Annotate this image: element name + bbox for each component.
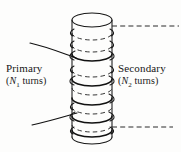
primary-winding-arcs: [72, 54, 112, 137]
primary-turns-word: turns: [20, 75, 43, 86]
primary-arc: [72, 130, 112, 137]
primary-arc: [72, 79, 112, 86]
secondary-arc: [72, 70, 112, 77]
core-bottom-arc: [72, 137, 112, 144]
secondary-turns-word: turns: [132, 75, 155, 86]
primary-paren-close: ): [43, 75, 46, 86]
secondary-arc: [72, 88, 112, 95]
primary-arc: [72, 54, 112, 61]
primary-label: Primary (N1 turns): [6, 62, 46, 90]
transformer-winding-figure: Primary (N1 turns) Secondary (N2 turns): [0, 0, 181, 152]
secondary-arc: [72, 125, 112, 132]
primary-turns-label: (N1 turns): [6, 75, 46, 90]
primary-label-title: Primary: [6, 62, 46, 75]
secondary-turns-label: (N2 turns): [118, 75, 166, 90]
primary-arc: [72, 98, 112, 105]
core-top-ellipse: [72, 13, 112, 27]
core-cylinder: [72, 13, 112, 144]
primary-lead-upper: [30, 43, 76, 58]
secondary-label: Secondary (N2 turns): [118, 62, 166, 90]
secondary-label-title: Secondary: [118, 62, 166, 75]
secondary-arc: [72, 107, 112, 114]
secondary-arc: [72, 33, 112, 40]
primary-arc: [72, 116, 112, 123]
secondary-paren-close: ): [155, 75, 158, 86]
secondary-arc: [72, 45, 112, 52]
secondary-winding-arcs: [72, 33, 112, 132]
